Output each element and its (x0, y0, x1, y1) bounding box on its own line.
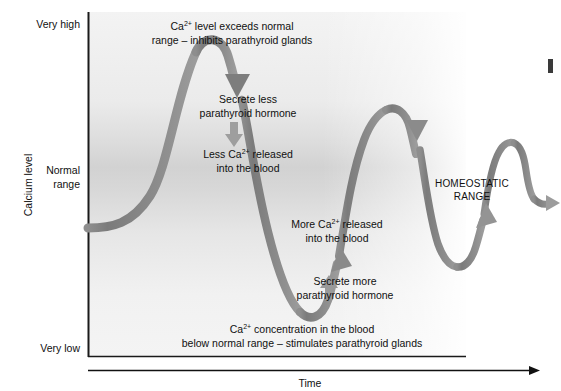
curve-arrowhead-up-2 (476, 203, 497, 228)
y-tick-label-very-high: Very high (36, 18, 80, 30)
curve-peak-3 (514, 143, 534, 199)
annotation-bottom-line2: below normal range – stimulates parathyr… (182, 337, 422, 349)
x-axis-title: Time (299, 377, 322, 389)
y-tick-label-normal-line2: range (53, 178, 80, 190)
annotation-secrete-more-line2: parathyroid hormone (297, 289, 394, 301)
edge-marker (548, 59, 553, 73)
annotation-homeostatic-line2: RANGE (454, 191, 491, 202)
annotation-secrete-more-line1: Secrete more (313, 275, 376, 287)
annotation-bottom-line1: Ca2+ concentration in the blood (230, 323, 375, 335)
feedback-loop-diagram: Very high Normal range Very low Calcium … (0, 0, 561, 391)
annotation-less-released-line2: into the blood (216, 162, 279, 174)
plot-background (88, 12, 466, 357)
y-tick-label-normal-line1: Normal (46, 164, 80, 176)
figure-container: Very high Normal range Very low Calcium … (0, 0, 561, 391)
annotation-top-line2: range – inhibits parathyroid glands (152, 34, 313, 46)
y-tick-label-very-low: Very low (40, 342, 80, 354)
curve-arrowhead-right-icon (546, 195, 560, 211)
x-axis-arrowhead-icon (529, 366, 540, 375)
annotation-more-released-line2: into the blood (305, 232, 368, 244)
annotation-secrete-less-line2: parathyroid hormone (200, 107, 297, 119)
annotation-secrete-less-line1: Secrete less (219, 93, 277, 105)
y-axis-title: Calcium level (22, 154, 34, 216)
annotation-homeostatic-line1: HOMEOSTATIC (435, 178, 509, 189)
